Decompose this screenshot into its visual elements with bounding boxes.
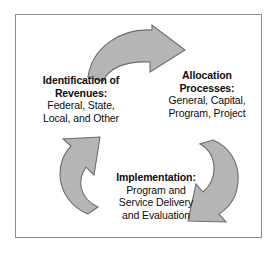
stage-body-line2: Local, and Other [22, 112, 140, 125]
stage-body-line3: and Evaluation [92, 209, 220, 222]
stage-body-line2: Program, Project [148, 107, 266, 120]
stage-heading-line1: Allocation [148, 69, 266, 82]
stage-heading-line2: Revenues: [22, 87, 140, 100]
stage-body-line1: General, Capital, [148, 94, 266, 107]
stage-label-allocation-processes: Allocation Processes: General, Capital, … [148, 69, 266, 119]
stage-heading-line1: Identification of [22, 74, 140, 87]
stage-heading-line2: Processes: [148, 82, 266, 95]
stage-label-implementation: Implementation: Program and Service Deli… [92, 171, 220, 221]
stage-body-line1: Federal, State, [22, 99, 140, 112]
cycle-diagram: Identification of Revenues: Federal, Sta… [0, 0, 280, 253]
stage-label-identification-of-revenues: Identification of Revenues: Federal, Sta… [22, 74, 140, 124]
stage-heading-line1: Implementation: [92, 171, 220, 184]
stage-body-line1: Program and [92, 184, 220, 197]
stage-body-line2: Service Delivery [92, 196, 220, 209]
